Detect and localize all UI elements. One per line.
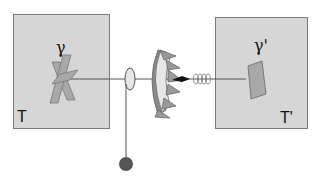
gamma-prime-label: γ': [254, 38, 268, 54]
temperature-T-label: T: [17, 109, 27, 125]
ratchet-icon: [152, 50, 182, 118]
mechanism-drawing: [0, 0, 319, 183]
weight-icon: [119, 157, 133, 171]
temperature-T-prime-label: T': [280, 110, 293, 126]
paddle-icon: [248, 61, 266, 99]
gamma-label: γ: [56, 40, 66, 56]
